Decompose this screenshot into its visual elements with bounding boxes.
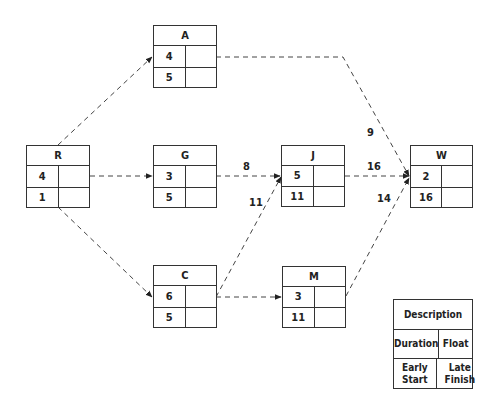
node-late-finish	[314, 308, 346, 327]
edge-r-c	[58, 207, 152, 297]
edge-label-a-w: 9	[367, 126, 374, 139]
node-w: W 2 16	[410, 145, 473, 208]
node-early-start: 5	[154, 68, 185, 87]
edge-label-m-w: 14	[377, 192, 391, 205]
node-early-start: 5	[154, 188, 185, 207]
node-label: R	[27, 146, 89, 166]
node-label: M	[283, 267, 345, 287]
node-label: C	[154, 266, 216, 286]
node-early-start: 16	[411, 188, 441, 207]
edge-label-j-w: 16	[367, 160, 381, 173]
node-label: J	[282, 146, 344, 166]
legend-title: Description	[394, 300, 472, 330]
node-float	[58, 166, 90, 186]
node-duration: 2	[411, 166, 441, 186]
node-label: W	[411, 146, 472, 166]
legend-late-finish: Late Finish	[436, 359, 483, 389]
node-float	[314, 287, 346, 307]
node-float	[185, 166, 217, 186]
node-late-finish	[185, 68, 217, 87]
node-late-finish	[185, 308, 217, 327]
node-duration: 3	[283, 287, 314, 307]
node-duration: 5	[282, 166, 313, 186]
node-g: G 3 5	[153, 145, 217, 208]
node-duration: 3	[154, 166, 185, 186]
node-early-start: 11	[283, 308, 314, 327]
node-c: C 6 5	[153, 265, 217, 328]
node-float	[185, 46, 217, 66]
node-early-start: 1	[27, 188, 58, 207]
edge-label-c-j: 11	[249, 196, 263, 209]
node-late-finish	[441, 188, 472, 207]
node-early-start: 5	[154, 308, 185, 327]
node-float	[313, 166, 345, 186]
node-duration: 4	[154, 46, 185, 66]
node-duration: 6	[154, 286, 185, 306]
node-early-start: 11	[282, 187, 313, 206]
legend-early-start: Early Start	[394, 359, 436, 389]
legend-float: Float	[438, 330, 472, 358]
node-label: G	[154, 146, 216, 166]
node-late-finish	[313, 187, 345, 206]
legend-box: Description Duration Float Early Start L…	[393, 299, 473, 389]
node-m: M 3 11	[282, 266, 346, 328]
node-float	[441, 166, 472, 186]
legend-duration: Duration	[394, 330, 438, 358]
edge-r-a	[58, 57, 152, 145]
node-late-finish	[185, 188, 217, 207]
node-a: A 4 5	[153, 25, 217, 88]
node-late-finish	[58, 188, 90, 207]
edge-c-j	[216, 177, 281, 297]
edge-label-g-j: 8	[243, 160, 250, 173]
node-float	[185, 286, 217, 306]
node-j: J 5 11	[281, 145, 345, 207]
node-r: R 4 1	[26, 145, 90, 208]
node-label: A	[154, 26, 216, 46]
node-duration: 4	[27, 166, 58, 186]
